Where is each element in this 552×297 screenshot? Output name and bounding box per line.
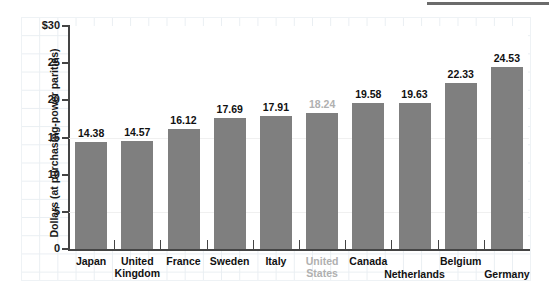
x-tick-mark	[345, 240, 346, 249]
bar-value-label: 22.33	[431, 69, 491, 80]
x-tick-mark	[438, 240, 439, 249]
chart-screenshot: Dollars (at purchasing-power parities) 0…	[0, 0, 552, 297]
y-tick-label: 25	[0, 57, 60, 68]
bar-value-label: 19.63	[385, 89, 445, 100]
y-tick-mark	[62, 25, 70, 27]
category-label: Canada	[323, 255, 413, 267]
y-tick-label-wrap: 0	[0, 243, 60, 254]
bar[interactable]	[306, 113, 338, 249]
y-tick-label: 10	[0, 169, 60, 180]
x-tick-mark	[484, 240, 485, 249]
y-tick-label-wrap: 25	[0, 57, 60, 68]
bar-value-label: 16.12	[154, 115, 214, 126]
bar[interactable]	[121, 141, 153, 249]
x-tick-mark	[391, 240, 392, 249]
bar[interactable]	[445, 83, 477, 249]
y-tick-label-wrap: 20	[0, 94, 60, 105]
x-tick-mark	[114, 240, 115, 249]
x-tick-mark	[207, 240, 208, 249]
y-tick-mark	[62, 174, 70, 176]
bar-value-label: 18.24	[292, 99, 352, 110]
y-tick-mark	[62, 248, 70, 250]
y-tick-label: $30	[0, 20, 60, 31]
x-axis-line	[68, 249, 530, 251]
y-tick-label-wrap: 10	[0, 169, 60, 180]
category-label: Belgium	[416, 255, 506, 267]
y-tick-label-wrap: 15	[0, 132, 60, 143]
y-tick-label-wrap: 5	[0, 206, 60, 217]
bar[interactable]	[168, 129, 200, 249]
bar[interactable]	[491, 67, 523, 249]
x-tick-mark	[299, 240, 300, 249]
bar[interactable]	[260, 116, 292, 249]
top-rule-divider	[427, 2, 549, 5]
y-tick-mark	[62, 99, 70, 101]
bar-value-label: 14.57	[107, 127, 167, 138]
bar-value-label: 24.53	[477, 53, 537, 64]
x-tick-mark	[160, 240, 161, 249]
y-tick-mark	[62, 62, 70, 64]
y-tick-label: 0	[0, 243, 60, 254]
y-tick-label-wrap: $30	[0, 20, 60, 31]
bar[interactable]	[214, 118, 246, 249]
bar[interactable]	[399, 103, 431, 249]
bar[interactable]	[75, 142, 107, 249]
y-tick-label: 5	[0, 206, 60, 217]
bar[interactable]	[352, 103, 384, 249]
y-tick-label: 20	[0, 94, 60, 105]
category-label: Netherlands	[370, 268, 460, 280]
category-label: Germany	[462, 268, 552, 280]
y-tick-label: 15	[0, 132, 60, 143]
x-tick-mark	[253, 240, 254, 249]
